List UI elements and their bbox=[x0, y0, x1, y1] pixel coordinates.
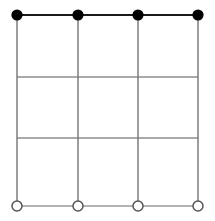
filled-node-circle bbox=[132, 9, 143, 20]
filled-node-circle bbox=[11, 9, 22, 20]
filled-node-circle bbox=[192, 9, 203, 20]
hollow-node-circle bbox=[12, 201, 22, 211]
hollow-node-circle bbox=[133, 201, 143, 211]
filled-node-circle bbox=[72, 9, 83, 20]
hollow-node-circle bbox=[193, 201, 203, 211]
vertical-line-group bbox=[17, 15, 198, 206]
grid-diagram-canvas bbox=[0, 0, 215, 221]
hollow-node-circle bbox=[73, 201, 83, 211]
horizontal-line-group bbox=[17, 15, 198, 206]
grid-diagram-svg bbox=[0, 0, 215, 221]
